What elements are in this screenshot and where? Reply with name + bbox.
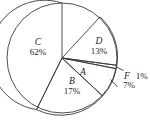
pie-label-d-value: 13% xyxy=(82,47,116,56)
pie-label-a-value-text: 7% xyxy=(123,81,145,90)
pie-label-c: C 62% xyxy=(18,38,58,57)
pie-label-a-name: A xyxy=(75,68,91,78)
pie-chart-svg xyxy=(0,0,150,120)
leader-line-f xyxy=(117,67,124,71)
pie-label-d: D 13% xyxy=(82,37,116,56)
pie-chart: C 62% D 13% B 17% A F 1% 7% xyxy=(0,0,150,120)
pie-label-c-value: 62% xyxy=(18,48,58,57)
pie-label-b-value: 17% xyxy=(56,87,88,96)
pie-label-f-value: 1% xyxy=(136,71,148,81)
pie-label-a: A xyxy=(75,68,91,78)
pie-label-a-value: 7% xyxy=(123,81,145,90)
pie-label-b: B 17% xyxy=(56,77,88,96)
